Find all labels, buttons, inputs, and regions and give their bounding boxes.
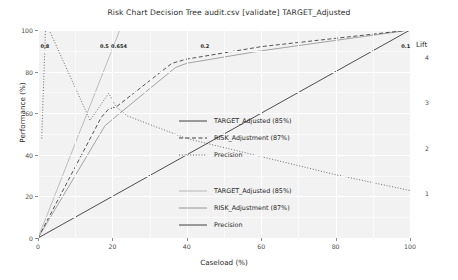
x-axis-title: Caseload (%) bbox=[38, 258, 410, 267]
lift-tick-label: 1 bbox=[414, 190, 440, 197]
legend-label: RISK_Adjustment (87%) bbox=[214, 134, 290, 142]
risk-score-value: 0.1 bbox=[401, 43, 410, 49]
legend-entry: TARGET_Adjusted (85%) bbox=[178, 182, 292, 199]
legend-label: Precision bbox=[214, 221, 243, 229]
legend-entry: Precision bbox=[178, 216, 292, 233]
risk-score-value: 0.5 bbox=[100, 43, 109, 49]
legend-label: TARGET_Adjusted (85%) bbox=[214, 117, 292, 125]
series-line-precision bbox=[42, 30, 410, 191]
legend-entry: TARGET_Adjusted (85%) bbox=[178, 112, 292, 129]
x-tick-mark bbox=[261, 238, 262, 241]
y-tick-mark bbox=[35, 72, 38, 73]
y-tick-label: 40 bbox=[7, 152, 33, 159]
x-tick-mark bbox=[410, 238, 411, 241]
legend-label: Precision bbox=[214, 151, 243, 159]
gridline-vertical-minor bbox=[150, 30, 151, 238]
y-tick-mark bbox=[35, 30, 38, 31]
y-tick-label: 100 bbox=[7, 27, 33, 34]
risk-score-value: 0.654 bbox=[111, 43, 127, 49]
y-tick-label: 60 bbox=[7, 110, 33, 117]
x-tick-mark bbox=[38, 238, 39, 241]
gridline-vertical-minor bbox=[373, 30, 374, 238]
performance-legend: TARGET_Adjusted (85%)RISK_Adjustment (87… bbox=[178, 112, 292, 163]
x-tick-label: 0 bbox=[23, 243, 53, 250]
x-tick-label: 60 bbox=[246, 243, 276, 250]
legend-label: RISK_Adjustment (87%) bbox=[214, 204, 290, 212]
legend-key-swatch bbox=[178, 150, 208, 160]
risk-score-value: 0.8 bbox=[40, 43, 49, 49]
x-tick-label: 80 bbox=[321, 243, 351, 250]
gridline-vertical-minor bbox=[75, 30, 76, 238]
y-tick-label: 20 bbox=[7, 193, 33, 200]
x-tick-label: 20 bbox=[97, 243, 127, 250]
gridline-vertical-minor bbox=[298, 30, 299, 238]
x-tick-mark bbox=[112, 238, 113, 241]
legend-key-swatch bbox=[178, 220, 208, 230]
gridline-vertical bbox=[336, 30, 337, 238]
y-tick-mark bbox=[35, 113, 38, 114]
lift-tick-label: 4 bbox=[414, 54, 440, 61]
y-tick-label: 80 bbox=[7, 69, 33, 76]
x-tick-label: 100 bbox=[395, 243, 425, 250]
lift-axis-title: Lift bbox=[416, 40, 427, 49]
legend-key-swatch bbox=[178, 116, 208, 126]
x-tick-label: 40 bbox=[172, 243, 202, 250]
risk-chart-figure: Risk Chart Decision Tree audit.csv [vali… bbox=[0, 0, 458, 280]
y-tick-mark bbox=[35, 196, 38, 197]
legend-key-swatch bbox=[178, 186, 208, 196]
x-tick-mark bbox=[336, 238, 337, 241]
legend-entry: RISK_Adjustment (87%) bbox=[178, 129, 292, 146]
lift-legend: TARGET_Adjusted (85%)RISK_Adjustment (87… bbox=[178, 182, 292, 233]
gridline-vertical bbox=[38, 30, 39, 238]
lift-tick-label: 2 bbox=[414, 145, 440, 152]
legend-entry: Precision bbox=[178, 146, 292, 163]
y-tick-label: 0 bbox=[7, 235, 33, 242]
chart-title: Risk Chart Decision Tree audit.csv [vali… bbox=[0, 8, 458, 17]
risk-score-value: 0.2 bbox=[200, 43, 209, 49]
legend-key-swatch bbox=[178, 203, 208, 213]
gridline-vertical bbox=[112, 30, 113, 238]
x-tick-mark bbox=[187, 238, 188, 241]
legend-label: TARGET_Adjusted (85%) bbox=[214, 187, 292, 195]
legend-entry: RISK_Adjustment (87%) bbox=[178, 199, 292, 216]
legend-key-swatch bbox=[178, 133, 208, 143]
lift-tick-label: 3 bbox=[414, 99, 440, 106]
y-tick-mark bbox=[35, 155, 38, 156]
